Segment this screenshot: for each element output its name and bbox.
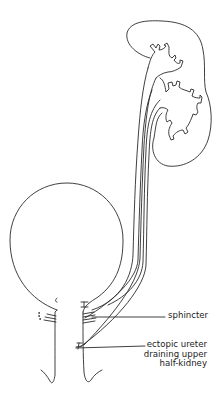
sphincter-right xyxy=(83,312,96,323)
bladder-outline xyxy=(10,183,123,312)
ectopic-leader-line xyxy=(76,346,145,348)
sphincter-label: sphincter xyxy=(168,311,208,321)
sphincter-left xyxy=(39,313,56,322)
lower-ureter-inner xyxy=(80,108,160,347)
upper-ureter-outer xyxy=(92,68,148,310)
ectopic-label-line-3: half-kidney xyxy=(144,359,207,369)
lower-calyx xyxy=(160,78,202,140)
upper-calyx xyxy=(148,43,183,78)
ectopic-ureter-label: ectopic ureter draining upper half-kidne… xyxy=(144,340,207,369)
bladder-mark xyxy=(56,298,58,302)
duplex-kidney-diagram: sphincter ectopic ureter draining upper … xyxy=(0,0,224,401)
kidney-outline xyxy=(127,21,211,166)
lower-ureter-outer xyxy=(108,100,160,305)
